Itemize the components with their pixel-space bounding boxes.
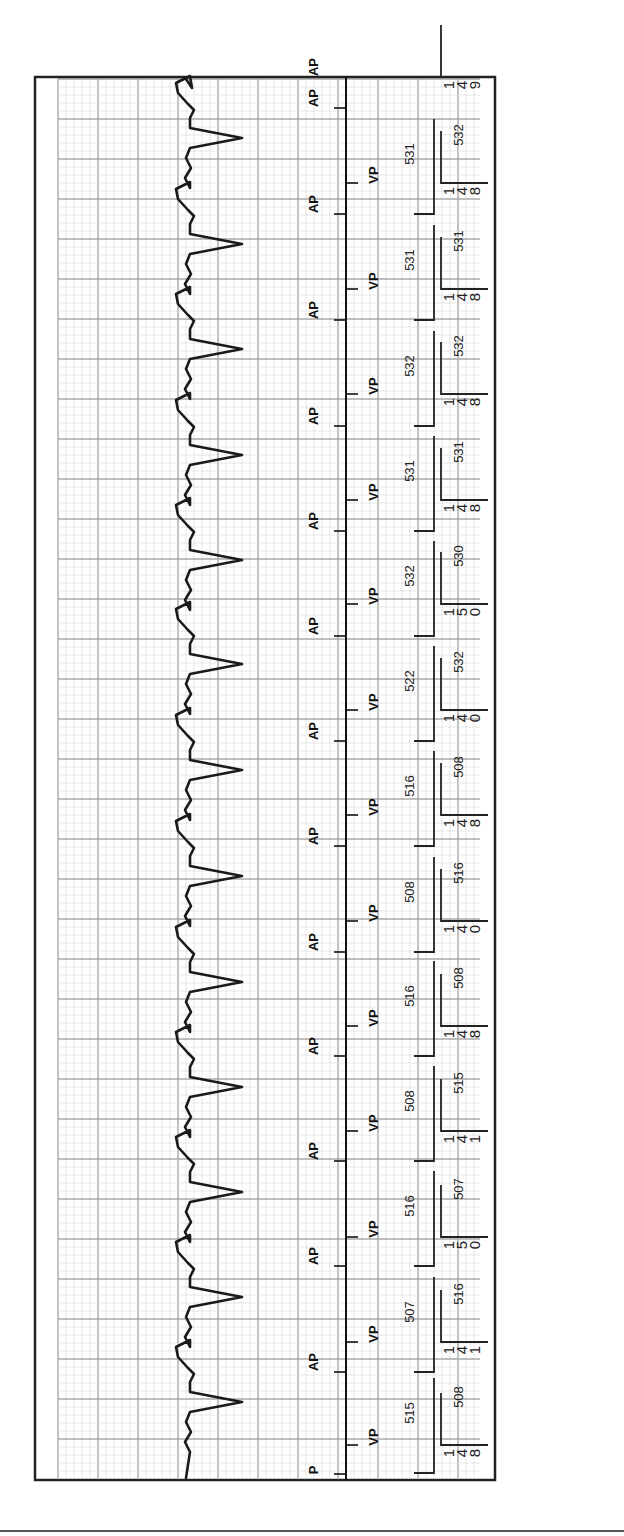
vv-bracket <box>414 1171 434 1266</box>
ap-marker-label: AP <box>306 617 321 635</box>
aa-interval-value: 531 <box>451 230 466 252</box>
ap-marker-label: AP <box>306 722 321 740</box>
av-interval-digit: 0 <box>466 714 483 722</box>
vp-marker-label: VP <box>366 1325 381 1343</box>
vv-interval-value: 507 <box>402 1301 417 1323</box>
vp-marker-label: VP <box>366 1428 381 1446</box>
vp-marker-label: VP <box>366 166 381 184</box>
vp-marker-label: VP <box>366 798 381 816</box>
vv-interval-value: 532 <box>402 565 417 587</box>
aa-interval-value: 532 <box>451 651 466 673</box>
p-marker-label: P <box>306 1465 321 1474</box>
vp-marker-label: VP <box>366 904 381 922</box>
ap-marker-label: AP <box>306 1353 321 1371</box>
ap-marker-label: AP <box>306 1037 321 1055</box>
aa-interval-value: 531 <box>451 441 466 463</box>
vv-interval-value: 522 <box>402 670 417 692</box>
vp-marker-label: VP <box>366 377 381 395</box>
ap-marker-label: AP <box>306 58 321 76</box>
av-interval-digit: 8 <box>466 293 483 301</box>
vv-interval-value: 516 <box>402 775 417 797</box>
vv-interval-value: 508 <box>402 881 417 903</box>
av-interval-digit: 8 <box>466 187 483 195</box>
vp-marker-label: VP <box>366 1220 381 1238</box>
vv-bracket <box>414 1066 434 1161</box>
vv-interval-value: 532 <box>402 355 417 377</box>
ap-marker-label: AP <box>306 195 321 213</box>
av-interval-digit: 8 <box>466 1030 483 1038</box>
ap-marker-label: AP <box>306 1247 321 1265</box>
interval-annotations: 5155075165085165085165225325315325315311… <box>402 25 488 1473</box>
av-interval-digit: 9 <box>466 81 483 89</box>
ap-marker-label: AP <box>306 301 321 319</box>
av-interval-digit: 8 <box>466 819 483 827</box>
vv-bracket <box>414 436 434 531</box>
av-interval-digit: 8 <box>466 398 483 406</box>
av-interval-digit: 1 <box>466 1346 483 1354</box>
vv-bracket <box>414 1378 434 1473</box>
av-interval-digit: 0 <box>466 1241 483 1249</box>
aa-interval-value: 508 <box>451 967 466 989</box>
vv-bracket <box>414 119 434 214</box>
aa-interval-value: 516 <box>451 862 466 884</box>
ap-marker-label: AP <box>306 827 321 845</box>
ap-marker-label: AP <box>306 89 321 107</box>
vv-bracket <box>414 331 434 426</box>
vv-interval-value: 516 <box>402 985 417 1007</box>
vv-interval-value: 515 <box>402 1402 417 1424</box>
aa-interval-value: 508 <box>451 1386 466 1408</box>
vp-marker-label: VP <box>366 1114 381 1132</box>
aa-interval-value: 516 <box>451 1283 466 1305</box>
vv-interval-value: 531 <box>402 249 417 271</box>
aa-interval-value: 515 <box>451 1072 466 1094</box>
aa-interval-value: 530 <box>451 545 466 567</box>
vp-marker-label: VP <box>366 693 381 711</box>
ecg-strip: PVPVPVPVPVPVPVPVPVPVPVPVPVPAPAPAPAPAPAPA… <box>0 0 624 1536</box>
ap-marker-label: AP <box>306 407 321 425</box>
ap-marker-label: AP <box>306 1142 321 1160</box>
av-interval-digit: 0 <box>466 608 483 616</box>
av-interval-digit: 8 <box>466 504 483 512</box>
aa-interval-value: 532 <box>451 124 466 146</box>
vv-bracket <box>414 1277 434 1372</box>
page-rule <box>0 1530 624 1532</box>
ap-marker-label: AP <box>306 512 321 530</box>
vv-interval-value: 531 <box>402 143 417 165</box>
aa-interval-value: 532 <box>451 335 466 357</box>
vv-interval-value: 516 <box>402 1195 417 1217</box>
vp-marker-label: VP <box>366 1009 381 1027</box>
aa-interval-value: 507 <box>451 1178 466 1200</box>
vv-interval-value: 531 <box>402 460 417 482</box>
av-bracket <box>441 25 488 77</box>
av-interval-digit: 0 <box>466 925 483 933</box>
vv-bracket <box>414 541 434 636</box>
ap-marker-label: AP <box>306 933 321 951</box>
vv-interval-value: 508 <box>402 1090 417 1112</box>
vp-marker-label: VP <box>366 272 381 290</box>
av-interval-digit: 1 <box>466 1135 483 1143</box>
vp-marker-label: VP <box>366 587 381 605</box>
av-interval-digit: 8 <box>466 1449 483 1457</box>
vp-marker-label: VP <box>366 483 381 501</box>
aa-interval-value: 508 <box>451 756 466 778</box>
